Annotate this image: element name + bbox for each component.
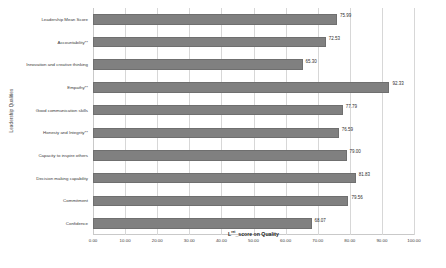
y-axis-tick-label: Innovation and creative thinking: [26, 53, 88, 76]
y-axis-tick-label: Leadership Mean Score: [41, 8, 88, 31]
y-axis-tick-label: Good communication skills: [36, 99, 88, 122]
bar-row: 72.53: [93, 31, 414, 54]
bar-value-label: 81.83: [359, 172, 370, 177]
bar: [93, 150, 347, 161]
x-axis-tick-label: 40.00: [216, 238, 227, 243]
bar-row: 65.30: [93, 53, 414, 76]
bar-value-label: 65.30: [306, 59, 317, 64]
bar-value-label: 75.99: [340, 13, 351, 18]
bar-value-label: 72.53: [329, 36, 340, 41]
x-axis-tick-labels: 0.0010.0020.0030.0040.0050.0060.0070.008…: [93, 238, 414, 250]
x-axis-tick-label: 80.00: [344, 238, 355, 243]
bar-row: 92.33: [93, 76, 414, 99]
x-axis-tick-label: 100.00: [407, 238, 420, 243]
bar-row: 76.59: [93, 122, 414, 145]
bar-row: 77.79: [93, 99, 414, 122]
bar-value-label: 79.56: [351, 195, 362, 200]
bar: [93, 218, 312, 229]
x-axis-tick-label: 90.00: [376, 238, 387, 243]
y-axis-tick-label: Confidence: [66, 212, 88, 235]
bar: [93, 196, 348, 207]
bar: [93, 105, 343, 116]
bar-chart: Leadership Qualities Leadership Mean Sco…: [0, 0, 446, 268]
x-axis-tick-label: 50.00: [248, 238, 259, 243]
bar: [93, 59, 303, 70]
x-axis-tick-label: 20.00: [152, 238, 163, 243]
y-axis-tick-label: Accountability**: [57, 31, 88, 54]
bar-value-label: 76.59: [342, 127, 353, 132]
bar-value-label: 68.07: [315, 218, 326, 223]
bar-series: 75.9972.5365.3092.3377.7976.5979.0081.83…: [93, 8, 414, 235]
x-axis-tick-label: 0.00: [89, 238, 98, 243]
bar-row: 81.83: [93, 167, 414, 190]
y-axis-tick-label: Honesty and Integrity**: [43, 122, 88, 145]
bar: [93, 173, 356, 184]
y-axis-tick-label: Empathy**: [67, 76, 88, 99]
bar-value-label: 92.33: [392, 81, 403, 86]
bar-row: 79.56: [93, 190, 414, 213]
bar-value-label: 79.00: [350, 149, 361, 154]
plot-area: 75.9972.5365.3092.3377.7976.5979.0081.83…: [93, 8, 414, 235]
bar: [93, 128, 339, 139]
bar: [93, 14, 337, 25]
bar-row: 75.99: [93, 8, 414, 31]
bar-row: 79.00: [93, 144, 414, 167]
y-axis-tick-label: Capacity to inspire others: [38, 144, 88, 167]
bar: [93, 37, 326, 48]
y-axis-tick-label: Commitment: [63, 190, 88, 213]
x-axis-title-rest: _score on Quality: [235, 231, 279, 237]
gridline: [414, 8, 415, 235]
y-axis-tick-labels: Leadership Mean ScoreAccountability**Inn…: [0, 8, 91, 235]
x-axis-tick-label: 10.00: [120, 238, 131, 243]
x-axis-tick-label: 60.00: [280, 238, 291, 243]
x-axis-tick-label: 30.00: [184, 238, 195, 243]
bar: [93, 82, 389, 93]
bar-value-label: 77.79: [346, 104, 357, 109]
x-axis-title: Lret_score on Quality: [93, 230, 414, 237]
y-axis-tick-label: Decision making capability: [36, 167, 88, 190]
x-axis-tick-label: 70.00: [312, 238, 323, 243]
